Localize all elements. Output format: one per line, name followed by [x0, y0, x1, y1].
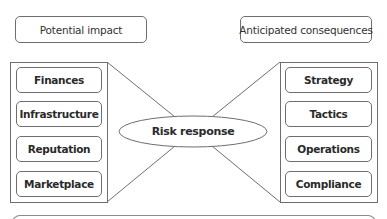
connector-right-top: [212, 62, 280, 117]
consequence-item-label: Operations: [297, 143, 359, 155]
potential-impact-label: Potential impact: [40, 24, 122, 36]
consequence-item-label: Strategy: [304, 74, 353, 86]
impact-item-label: Infrastructure: [20, 108, 99, 120]
consequence-item-label: Tactics: [309, 108, 347, 120]
anticipated-consequences-label: Anticipated consequences: [239, 24, 372, 36]
consequence-item-label: Compliance: [296, 178, 361, 190]
impact-item-finances: Finances: [16, 67, 102, 93]
connector-right-bottom: [212, 146, 280, 202]
anticipated-consequences-header: Anticipated consequences: [240, 16, 372, 43]
risk-response-label: Risk response: [152, 125, 235, 138]
impact-item-label: Finances: [34, 74, 84, 86]
impact-item-label: Reputation: [28, 143, 91, 155]
connector-left-top: [107, 62, 175, 117]
impact-item-reputation: Reputation: [16, 136, 102, 162]
consequence-item-operations: Operations: [285, 136, 372, 162]
impact-item-label: Marketplace: [24, 178, 94, 190]
connector-left-bottom: [107, 146, 175, 202]
risk-response-label-wrap: Risk response: [119, 116, 267, 147]
consequence-item-strategy: Strategy: [285, 67, 372, 93]
consequence-item-tactics: Tactics: [285, 101, 372, 127]
potential-impact-header: Potential impact: [15, 16, 147, 43]
bottom-bar: [12, 215, 376, 219]
impact-item-infrastructure: Infrastructure: [16, 101, 102, 127]
consequence-item-compliance: Compliance: [285, 171, 372, 197]
impact-item-marketplace: Marketplace: [16, 171, 102, 197]
